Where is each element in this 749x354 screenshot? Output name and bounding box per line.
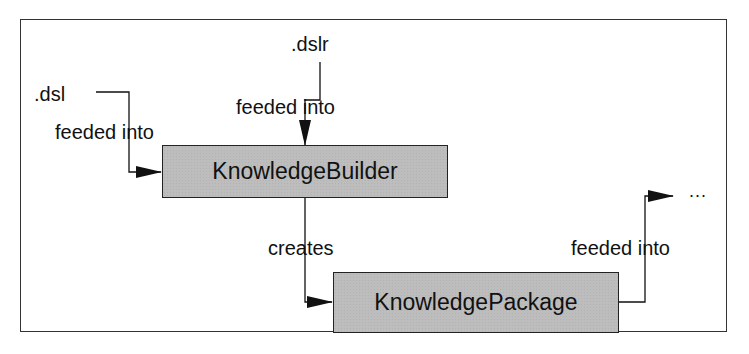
source-dsl-label: .dsl: [34, 84, 65, 104]
ellipsis-label: ...: [689, 182, 707, 200]
edge-label-creates: creates: [268, 238, 334, 258]
knowledge-package-node: KnowledgePackage: [333, 272, 619, 333]
source-dslr-label: .dslr: [291, 34, 329, 54]
edge-label-dslr: feeded into: [236, 97, 335, 117]
edge-label-package: feeded into: [571, 238, 670, 258]
knowledge-builder-label: KnowledgeBuilder: [212, 158, 397, 185]
edge-label-dsl: feeded into: [55, 122, 154, 142]
knowledge-builder-node: KnowledgeBuilder: [162, 145, 448, 198]
knowledge-package-label: KnowledgePackage: [374, 289, 577, 316]
